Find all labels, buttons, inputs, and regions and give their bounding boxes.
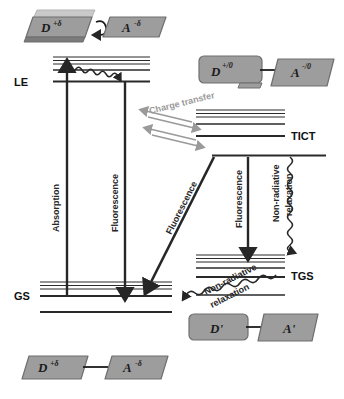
energy-level-diagram: LE TICT GS TGS Absorption Fl [0,0,344,399]
state-label-le: LE [14,76,28,88]
fluorescence-le-label: Fluorescence [110,174,120,232]
absorption-label: Absorption [51,184,61,232]
molecule-le-acceptor-charge: -δ [134,19,141,28]
fluorescence-tict-label: Fluorescence [234,170,244,228]
molecule-gs-donor-symbol: D [37,360,48,375]
molecule-gs-acceptor-symbol: A [122,360,132,375]
molecule-le-donor-charge: +δ [53,19,62,28]
molecule-tict-donor-tab [238,83,262,88]
molecule-tict-donor-charge: +/0 [222,61,233,70]
diagram-canvas: LE TICT GS TGS Absorption Fl [0,0,344,399]
molecule-le-acceptor-symbol: A [121,20,131,35]
molecule-tgs-acceptor-symbol: A' [282,321,296,336]
molecule-le-donor-symbol: D [40,20,51,35]
molecule-tict-acceptor-symbol: A [290,65,300,80]
molecule-gs-donor-charge: +δ [50,359,59,368]
non-radiative-tict-label-line1: Non-radiative [271,164,281,222]
molecule-le-donor-shadow [24,37,85,42]
state-label-tict: TICT [291,130,316,142]
non-radiative-tict-label-line2: relaxation [284,173,294,216]
molecule-tgs-donor-symbol: D' [209,321,223,336]
state-label-gs: GS [14,290,30,302]
molecule-tict-donor-symbol: D [210,64,221,79]
state-label-tgs: TGS [291,270,314,282]
molecule-tict-acceptor-charge: -/0 [302,62,311,71]
molecule-gs-acceptor-charge: -δ [135,359,142,368]
